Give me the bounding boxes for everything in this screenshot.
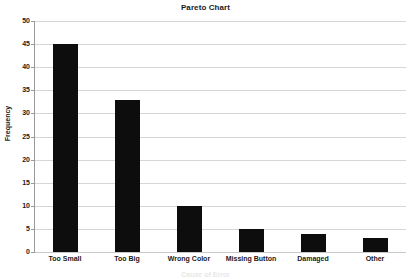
y-tick-mark	[31, 44, 34, 45]
y-tick-label: 30	[4, 109, 30, 116]
bars-layer	[34, 21, 406, 252]
x-axis-title: Cause of Error	[0, 271, 411, 278]
y-tick-label: 15	[4, 179, 30, 186]
y-tick-mark	[31, 160, 34, 161]
y-tick-label: 35	[4, 86, 30, 93]
y-tick-mark	[31, 229, 34, 230]
y-tick-label: 50	[4, 17, 30, 24]
gridline	[34, 252, 406, 253]
y-tick-label: 45	[4, 40, 30, 47]
y-tick-mark	[31, 183, 34, 184]
y-tick-mark	[31, 252, 34, 253]
y-tick-mark	[31, 21, 34, 22]
bar[interactable]	[363, 238, 388, 252]
chart-title: Pareto Chart	[0, 3, 411, 12]
y-tick-label: 20	[4, 156, 30, 163]
y-axis-title: Frequency	[4, 89, 11, 159]
y-tick-label: 25	[4, 133, 30, 140]
y-tick-label: 10	[4, 202, 30, 209]
bar[interactable]	[177, 206, 202, 252]
y-tick-label: 40	[4, 63, 30, 70]
y-tick-mark	[31, 90, 34, 91]
y-tick-mark	[31, 206, 34, 207]
y-tick-mark	[31, 67, 34, 68]
bar[interactable]	[239, 229, 264, 252]
bar[interactable]	[115, 100, 140, 252]
bar[interactable]	[53, 44, 78, 252]
y-tick-label: 0	[4, 248, 30, 255]
y-tick-mark	[31, 113, 34, 114]
pareto-chart: Pareto Chart Frequency Cause of Error 05…	[0, 0, 411, 279]
y-tick-mark	[31, 137, 34, 138]
y-tick-label: 5	[4, 225, 30, 232]
x-category-label: Other	[335, 255, 411, 262]
bar[interactable]	[301, 234, 326, 252]
